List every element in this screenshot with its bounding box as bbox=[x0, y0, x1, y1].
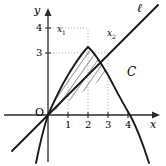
x-axis bbox=[4, 112, 160, 119]
x-tick-2: 2 bbox=[85, 120, 91, 130]
point-label-x1-sub: 1 bbox=[62, 29, 66, 36]
geometry-plot bbox=[0, 0, 166, 166]
x-axis-label: x bbox=[150, 119, 156, 130]
curve-label-l: ℓ bbox=[137, 2, 142, 14]
y-tick-3: 3 bbox=[36, 48, 42, 58]
point-label-x2: x2 bbox=[107, 29, 116, 40]
x-tick-1: 1 bbox=[65, 120, 71, 130]
y-axis-label: y bbox=[34, 5, 40, 16]
origin-label: O bbox=[35, 107, 44, 118]
point-label-x2-sub: 2 bbox=[112, 33, 116, 40]
curve-label-c: C bbox=[127, 66, 136, 78]
x-tick-4: 4 bbox=[125, 120, 131, 130]
y-tick-4: 4 bbox=[36, 23, 42, 33]
x-tick-3: 3 bbox=[105, 120, 111, 130]
y-axis bbox=[45, 8, 52, 162]
point-label-x1: x1 bbox=[57, 25, 66, 36]
figure-canvas: x y O 1 2 3 4 4 3 C ℓ x1 x2 bbox=[0, 0, 166, 166]
